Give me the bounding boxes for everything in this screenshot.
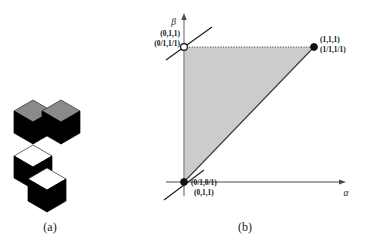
cube-top-right [42, 100, 80, 144]
panel-b-region-plot: β α (0,1,1) (0/1,1/1) (1,1,1) (1/1,1/1) … [150, 0, 369, 215]
point-origin-marker[interactable] [181, 179, 188, 186]
panel-b-caption: (b) [223, 220, 267, 235]
point-origin-label-line1: (0/1,0/1) [191, 178, 217, 187]
beta-axis-arrow [181, 13, 186, 20]
point-top-right-label-line2: (1/1,1/1) [320, 45, 346, 54]
point-top-right-marker[interactable] [311, 44, 318, 51]
alpha-axis-arrow [339, 179, 346, 184]
point-top-left-label-line1: (0,1,1) [160, 29, 180, 38]
alpha-axis-label: α [344, 188, 350, 198]
figure-canvas: (a) β α (0,1,1) (0/1,1/1) (1,1,1) (1/ [0, 0, 369, 249]
point-top-left-marker[interactable] [181, 44, 188, 51]
point-origin-label-line2: (0,1,1) [194, 188, 214, 197]
point-top-left-label-line2: (0/1,1/1) [154, 39, 180, 48]
panel-a-caption: (a) [28, 220, 72, 235]
point-top-right-label-line1: (1,1,1) [320, 35, 340, 44]
beta-axis-label: β [170, 17, 176, 27]
panel-a-cube-diagram [0, 5, 140, 220]
